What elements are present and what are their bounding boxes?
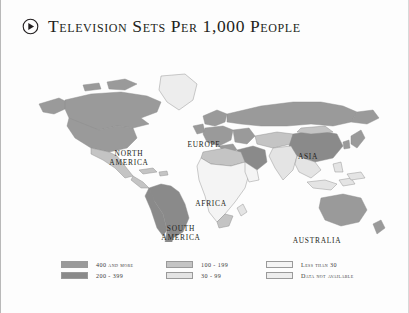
legend-row-2: 200 - 399 30 - 99 Data not available	[61, 272, 391, 279]
region-philippines	[333, 162, 343, 172]
legend-swatch-200-399	[61, 272, 88, 279]
circled-play-arrow-icon	[22, 18, 39, 35]
page-title: Television Sets Per 1,000 People	[48, 16, 301, 37]
legend-200-399: 200 - 399	[61, 272, 166, 279]
legend-less-than-30: Less than 30	[266, 261, 391, 268]
legend-label-200-399: 200 - 399	[96, 273, 123, 279]
legend: 400 and more 100 - 199 Less than 30 200 …	[61, 261, 391, 283]
legend-row-1: 400 and more 100 - 199 Less than 30	[61, 261, 391, 268]
region-hispaniola	[159, 171, 168, 176]
legend-30-99: 30 - 99	[166, 272, 266, 279]
figure-frame: Television Sets Per 1,000 People	[0, 0, 409, 313]
legend-swatch-data-not-available	[266, 272, 293, 279]
legend-label-data-not-available: Data not available	[301, 273, 354, 279]
legend-swatch-100-199	[166, 261, 193, 268]
legend-100-199: 100 - 199	[166, 261, 266, 268]
title-bar: Television Sets Per 1,000 People	[1, 10, 408, 42]
legend-label-less-than-30: Less than 30	[301, 262, 337, 268]
legend-label-100-199: 100 - 199	[201, 262, 228, 268]
legend-label-30-99: 30 - 99	[201, 273, 221, 279]
legend-swatch-400-and-more	[61, 261, 88, 268]
legend-swatch-less-than-30	[266, 261, 293, 268]
legend-data-not-available: Data not available	[266, 272, 391, 279]
legend-400-and-more: 400 and more	[61, 261, 166, 268]
legend-label-400-and-more: 400 and more	[96, 262, 133, 268]
legend-swatch-30-99	[166, 272, 193, 279]
world-map: NORTH AMERICA SOUTH AMERICA EUROPE AFRIC…	[21, 52, 391, 242]
world-map-svg	[21, 52, 391, 242]
